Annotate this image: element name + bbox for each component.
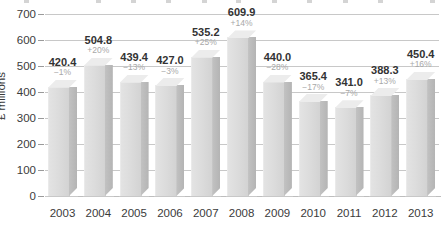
bar-2010[interactable] [299,101,320,196]
value-change: −7% [324,89,374,98]
bar-2003[interactable] [48,87,69,196]
x-axis-label-2008: 2008 [224,207,260,219]
bar-front-face [227,37,249,196]
value-change: +14% [217,19,267,28]
ytick-100 [38,170,44,171]
bar-front-face [406,79,428,196]
bar-2008[interactable] [227,37,248,196]
ytick-label-0: 0 [0,191,36,203]
ytick-label-200: 200 [0,139,36,151]
ytick-200 [38,144,44,145]
bar-2006[interactable] [155,85,176,196]
x-axis-label-2007: 2007 [188,207,224,219]
ytick-label-400: 400 [0,87,36,99]
value-change: +16% [396,60,443,69]
bar-side-face [284,82,292,196]
bar-front-face [335,107,357,196]
ytick-700 [38,14,44,15]
bar-front-face [370,95,392,196]
value-label-2006: 427.0−3% [145,55,195,75]
bar-front-face [191,57,213,196]
ytick-label-700: 700 [0,9,36,21]
ytick-label-300: 300 [0,113,36,125]
x-axis-label-2012: 2012 [367,207,403,219]
value-label-2008: 609.9+14% [217,7,267,27]
bar-front-face [48,87,70,196]
bar-side-face [356,107,364,196]
x-axis-label-2009: 2009 [260,207,296,219]
ytick-600 [38,40,44,41]
bar-front-face [263,82,285,196]
bar-side-face [427,79,435,196]
ytick-label-500: 500 [0,61,36,73]
plot-area: 0 100 200 300 400 500 600 700 420.4−1%50… [45,8,439,200]
cropped-top-artifacts [0,0,443,4]
bar-side-face [105,65,113,196]
ytick-0 [38,196,44,197]
x-axis-label-2003: 2003 [45,207,81,219]
x-axis-label-2010: 2010 [295,207,331,219]
bar-side-face [141,82,149,196]
bar-side-face [391,95,399,196]
x-axis-label-2011: 2011 [331,207,367,219]
x-axis-label-2006: 2006 [152,207,188,219]
x-axis-label-2013: 2013 [403,207,439,219]
ytick-label-600: 600 [0,35,36,47]
bar-front-face [120,82,142,196]
value-label-2007: 535.2+25% [181,27,231,47]
value-change: −3% [145,67,195,76]
value-label-2013: 450.4+16% [396,49,443,69]
bar-front-face [84,65,106,196]
bar-2009[interactable] [263,82,284,196]
value-label-2009: 440.0−28% [253,52,303,72]
bar-2005[interactable] [120,82,141,196]
bar-2004[interactable] [84,65,105,196]
bar-front-face [155,85,177,196]
bar-2011[interactable] [335,107,356,196]
bar-side-face [320,101,328,196]
x-axis-label-2004: 2004 [80,207,116,219]
ytick-400 [38,92,44,93]
ytick-300 [38,118,44,119]
value-change: +13% [360,77,410,86]
x-axis-labels: 2003200420052006200720082009201020112012… [45,203,439,223]
baseline-tick-row [45,196,441,197]
value-label-2003: 420.4−1% [38,57,88,77]
value-change: −1% [38,68,88,77]
bar-2012[interactable] [370,95,391,196]
bar-side-face [212,57,220,196]
value-change: +25% [181,38,231,47]
bar-2013[interactable] [406,79,427,196]
ytick-label-100: 100 [0,165,36,177]
bar-side-face [69,87,77,196]
bar-side-face [176,85,184,196]
value-number: 427.0 [145,55,195,67]
bar-2007[interactable] [191,57,212,196]
bar-chart: £ millions 0 100 200 300 400 500 600 700… [0,0,443,231]
x-axis-label-2005: 2005 [116,207,152,219]
bar-front-face [299,101,321,196]
